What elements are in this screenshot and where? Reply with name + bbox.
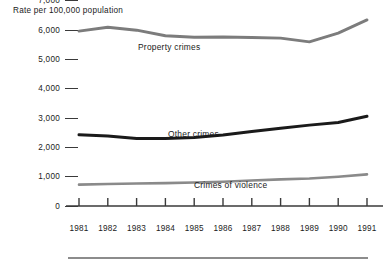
decorative-bottom-rule	[68, 257, 368, 259]
series-line-other-crimes	[79, 116, 367, 138]
x-axis-tick-label-1991: 1991	[350, 224, 384, 233]
series-line-property-crimes	[79, 20, 367, 42]
series-label-crimes-of-violence: Crimes of violence	[194, 180, 267, 190]
series-label-other-crimes: Other crimes	[168, 129, 219, 139]
series-label-property-crimes: Property crimes	[138, 42, 200, 52]
crime-rate-line-chart: Rate per 100,000 population 7,0006,0005,…	[0, 0, 390, 271]
